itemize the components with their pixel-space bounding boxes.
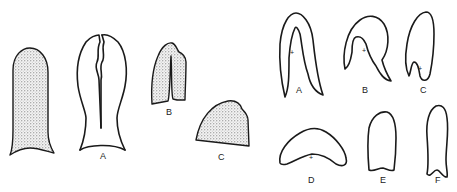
illustration-plate: + + + + A B C A B C D E F [0,0,457,192]
plate-drawing: + + + + [0,0,457,192]
label-right-e: E [380,176,386,185]
label-right-a: A [296,86,302,95]
center-mark: + [290,49,294,56]
label-left-c: C [218,153,225,162]
center-mark: + [418,65,422,72]
label-right-f: F [435,176,441,185]
figure-right-f [427,106,448,178]
center-mark: + [362,47,366,54]
label-left-b: B [166,108,172,117]
label-right-d: D [308,176,315,185]
label-right-b: B [362,86,368,95]
figure-left-c [196,101,249,146]
figure-right-b: + [344,16,391,81]
center-mark: + [309,154,313,161]
figure-right-e [368,112,396,171]
figure-left-unlabeled [10,48,54,155]
figure-left-a [77,35,126,150]
label-left-a: A [100,152,106,161]
figure-right-d: + [280,128,347,165]
figure-right-c: + [406,12,434,80]
figure-left-b [152,43,186,104]
label-right-c: C [420,86,427,95]
